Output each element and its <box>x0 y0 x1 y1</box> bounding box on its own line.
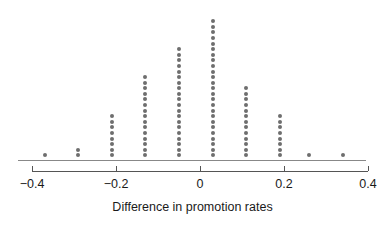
data-point <box>110 125 114 129</box>
data-point <box>43 153 47 157</box>
data-point <box>143 109 147 113</box>
dot-stack <box>142 75 148 159</box>
data-point <box>211 30 215 34</box>
data-point <box>211 103 215 107</box>
data-point <box>244 137 248 141</box>
x-tick-label: 0 <box>197 177 204 191</box>
data-point <box>143 86 147 90</box>
data-point <box>143 75 147 79</box>
data-point <box>177 131 181 135</box>
data-point <box>211 114 215 118</box>
x-axis-line <box>32 171 368 172</box>
data-point <box>177 153 181 157</box>
dot-stack <box>277 114 283 159</box>
data-point <box>110 137 114 141</box>
data-point <box>211 92 215 96</box>
data-point <box>143 137 147 141</box>
data-point <box>143 92 147 96</box>
data-point <box>110 142 114 146</box>
data-point <box>211 47 215 51</box>
data-point <box>211 81 215 85</box>
data-point <box>177 148 181 152</box>
data-point <box>143 125 147 129</box>
data-point <box>177 92 181 96</box>
data-point <box>177 125 181 129</box>
data-point <box>177 142 181 146</box>
data-point <box>211 109 215 113</box>
data-point <box>211 75 215 79</box>
dot-stack <box>42 153 48 159</box>
data-point <box>177 53 181 57</box>
plot-area: −0.4−0.200.20.4 <box>0 0 385 226</box>
data-point <box>278 153 282 157</box>
data-point <box>143 103 147 107</box>
data-point <box>211 58 215 62</box>
x-tick-label: −0.2 <box>104 177 129 191</box>
data-point <box>278 142 282 146</box>
x-tick <box>32 166 33 171</box>
data-point <box>177 47 181 51</box>
data-point <box>278 137 282 141</box>
data-point <box>110 153 114 157</box>
x-tick <box>116 166 117 171</box>
data-point <box>177 70 181 74</box>
data-point <box>211 25 215 29</box>
data-point <box>177 137 181 141</box>
data-point <box>244 125 248 129</box>
data-point <box>143 142 147 146</box>
data-point <box>211 86 215 90</box>
data-point <box>211 131 215 135</box>
data-point <box>211 70 215 74</box>
data-point <box>177 75 181 79</box>
data-point <box>278 120 282 124</box>
data-point <box>244 120 248 124</box>
data-point <box>278 114 282 118</box>
data-point <box>278 131 282 135</box>
data-point <box>307 153 311 157</box>
x-tick <box>200 166 201 171</box>
data-point <box>110 131 114 135</box>
data-point <box>110 148 114 152</box>
data-point <box>143 81 147 85</box>
data-point <box>244 97 248 101</box>
data-point <box>211 53 215 57</box>
data-point <box>244 92 248 96</box>
dot-stack <box>340 153 346 159</box>
data-point <box>177 64 181 68</box>
data-point <box>244 131 248 135</box>
data-point <box>211 120 215 124</box>
dot-stack <box>243 86 249 159</box>
data-point <box>244 114 248 118</box>
x-tick <box>368 166 369 171</box>
data-point <box>143 114 147 118</box>
data-point <box>211 142 215 146</box>
dot-stack <box>109 114 115 159</box>
data-point <box>211 19 215 23</box>
data-point <box>177 120 181 124</box>
dot-stack <box>210 19 216 159</box>
data-point <box>177 81 181 85</box>
x-axis-title: Difference in promotion rates <box>0 200 385 214</box>
data-point <box>341 153 345 157</box>
data-point <box>244 148 248 152</box>
data-point <box>244 86 248 90</box>
data-point <box>211 36 215 40</box>
data-point <box>143 97 147 101</box>
data-point <box>177 97 181 101</box>
data-point <box>211 148 215 152</box>
data-point <box>211 125 215 129</box>
x-tick-label: 0.2 <box>275 177 292 191</box>
data-point <box>211 137 215 141</box>
data-point <box>110 114 114 118</box>
data-point <box>244 109 248 113</box>
x-tick <box>284 166 285 171</box>
data-point <box>76 148 80 152</box>
dot-stack <box>306 153 312 159</box>
x-tick-label: 0.4 <box>359 177 376 191</box>
data-point <box>177 103 181 107</box>
data-point <box>211 97 215 101</box>
data-point <box>278 125 282 129</box>
dot-stack <box>176 47 182 159</box>
data-point <box>177 58 181 62</box>
data-point <box>244 103 248 107</box>
